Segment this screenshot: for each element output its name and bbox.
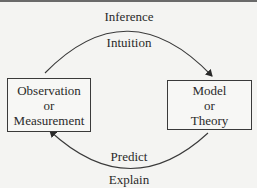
label-predict: Predict <box>111 150 148 164</box>
label-intuition: Intuition <box>107 36 152 50</box>
node-observation-line-3: Measurement <box>14 113 85 128</box>
node-model-line-3: Theory <box>191 113 229 128</box>
node-observation-line-2: or <box>44 98 55 113</box>
node-observation: Observation or Measurement <box>7 78 91 132</box>
node-model: Model or Theory <box>167 80 252 130</box>
node-observation-line-1: Observation <box>17 83 81 98</box>
node-model-line-2: or <box>204 98 215 113</box>
label-inference: Inference <box>104 10 153 24</box>
label-explain: Explain <box>109 173 149 187</box>
node-model-line-1: Model <box>193 83 227 98</box>
